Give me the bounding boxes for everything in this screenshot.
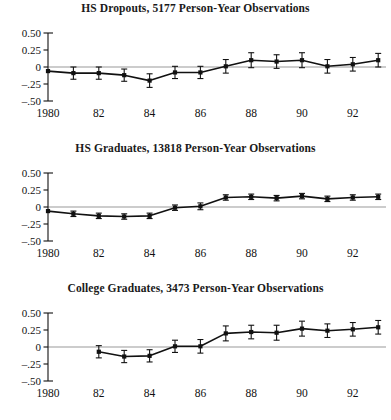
data-point-marker — [46, 209, 50, 213]
y-tick-label: 0 — [36, 201, 42, 213]
data-point-marker — [376, 58, 380, 62]
plot-area: 0.500.250–.25–.501980828486889092 — [0, 14, 391, 132]
y-tick-label: 0 — [36, 341, 42, 353]
panel-hs-dropouts: HS Dropouts, 5177 Person-Year Observatio… — [0, 0, 391, 140]
x-tick-label: 90 — [296, 387, 308, 399]
data-point-marker — [224, 64, 228, 68]
data-point-marker — [275, 59, 279, 63]
data-point-marker — [249, 330, 253, 334]
data-point-marker — [198, 70, 202, 74]
plot-area: 0.500.250–.25–.501980828486889092 — [0, 154, 391, 272]
x-tick-label: 88 — [245, 107, 257, 119]
x-tick-label: 84 — [144, 107, 156, 119]
y-tick-label: 0.25 — [22, 324, 42, 336]
data-point-marker — [249, 58, 253, 62]
x-tick-label: 82 — [93, 247, 105, 259]
x-tick-label: 86 — [195, 247, 207, 259]
data-point-marker — [275, 196, 279, 200]
x-tick-label: 84 — [144, 387, 156, 399]
data-point-marker — [122, 214, 126, 218]
panel-title: College Graduates, 3473 Person-Year Obse… — [0, 280, 391, 294]
x-tick-label: 82 — [93, 107, 105, 119]
data-point-marker — [198, 204, 202, 208]
data-point-marker — [173, 206, 177, 210]
data-point-marker — [148, 214, 152, 218]
x-tick-label: 86 — [195, 107, 207, 119]
data-point-marker — [351, 327, 355, 331]
x-tick-label: 90 — [296, 247, 308, 259]
data-point-marker — [376, 195, 380, 199]
data-point-marker — [300, 58, 304, 62]
series-line — [48, 60, 378, 80]
y-tick-label: 0.25 — [22, 184, 42, 196]
data-point-marker — [224, 195, 228, 199]
x-tick-label: 1980 — [37, 247, 60, 259]
x-tick-label: 86 — [195, 387, 207, 399]
data-point-marker — [275, 331, 279, 335]
panel-hs-graduates: HS Graduates, 13818 Person-Year Observat… — [0, 140, 391, 280]
x-tick-label: 92 — [347, 247, 359, 259]
plot-svg: 0.500.250–.25–.501980828486889092 — [0, 154, 391, 272]
data-point-marker — [249, 195, 253, 199]
panel-title: HS Dropouts, 5177 Person-Year Observatio… — [0, 0, 391, 14]
y-tick-label: 0.50 — [22, 27, 42, 39]
data-point-marker — [198, 344, 202, 348]
data-point-marker — [300, 327, 304, 331]
panel-title: HS Graduates, 13818 Person-Year Observat… — [0, 140, 391, 154]
data-point-marker — [97, 350, 101, 354]
data-point-marker — [173, 344, 177, 348]
data-point-marker — [325, 197, 329, 201]
data-point-marker — [325, 64, 329, 68]
data-point-marker — [71, 212, 75, 216]
x-tick-label: 84 — [144, 247, 156, 259]
y-tick-label: –.50 — [21, 235, 42, 247]
data-point-marker — [46, 69, 50, 73]
y-tick-label: 0.25 — [22, 44, 42, 56]
data-point-marker — [351, 62, 355, 66]
data-point-marker — [97, 214, 101, 218]
x-tick-label: 88 — [245, 387, 257, 399]
data-point-marker — [71, 71, 75, 75]
x-tick-label: 1980 — [37, 387, 60, 399]
y-tick-label: 0.50 — [22, 167, 42, 179]
x-tick-label: 82 — [93, 387, 105, 399]
data-point-marker — [122, 73, 126, 77]
data-point-marker — [122, 354, 126, 358]
plot-area: 0.500.250–.25–.501980828486889092 — [0, 294, 391, 412]
data-point-marker — [97, 71, 101, 75]
data-point-marker — [224, 331, 228, 335]
plot-svg: 0.500.250–.25–.501980828486889092 — [0, 14, 391, 132]
figure-three-panel-wage-trends: HS Dropouts, 5177 Person-Year Observatio… — [0, 0, 391, 420]
data-point-marker — [173, 70, 177, 74]
y-tick-label: –.25 — [21, 358, 42, 370]
plot-svg: 0.500.250–.25–.501980828486889092 — [0, 294, 391, 412]
y-tick-label: –.50 — [21, 375, 42, 387]
x-tick-label: 92 — [347, 107, 359, 119]
data-point-marker — [351, 195, 355, 199]
y-tick-label: 0 — [36, 61, 42, 73]
y-tick-label: –.25 — [21, 218, 42, 230]
y-tick-label: 0.50 — [22, 307, 42, 319]
data-point-marker — [300, 194, 304, 198]
x-tick-label: 1980 — [37, 107, 60, 119]
x-tick-label: 88 — [245, 247, 257, 259]
panel-college-graduates: College Graduates, 3473 Person-Year Obse… — [0, 280, 391, 420]
series-line — [99, 327, 378, 356]
x-tick-label: 92 — [347, 387, 359, 399]
y-tick-label: –.25 — [21, 78, 42, 90]
y-tick-label: –.50 — [21, 95, 42, 107]
data-point-marker — [325, 329, 329, 333]
data-point-marker — [148, 354, 152, 358]
data-point-marker — [376, 325, 380, 329]
data-point-marker — [148, 79, 152, 83]
x-tick-label: 90 — [296, 107, 308, 119]
